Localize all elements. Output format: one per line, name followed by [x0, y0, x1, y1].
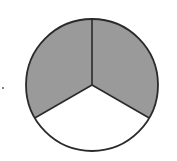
fraction-circle-diagram	[0, 0, 177, 161]
dot-marker	[2, 87, 4, 89]
